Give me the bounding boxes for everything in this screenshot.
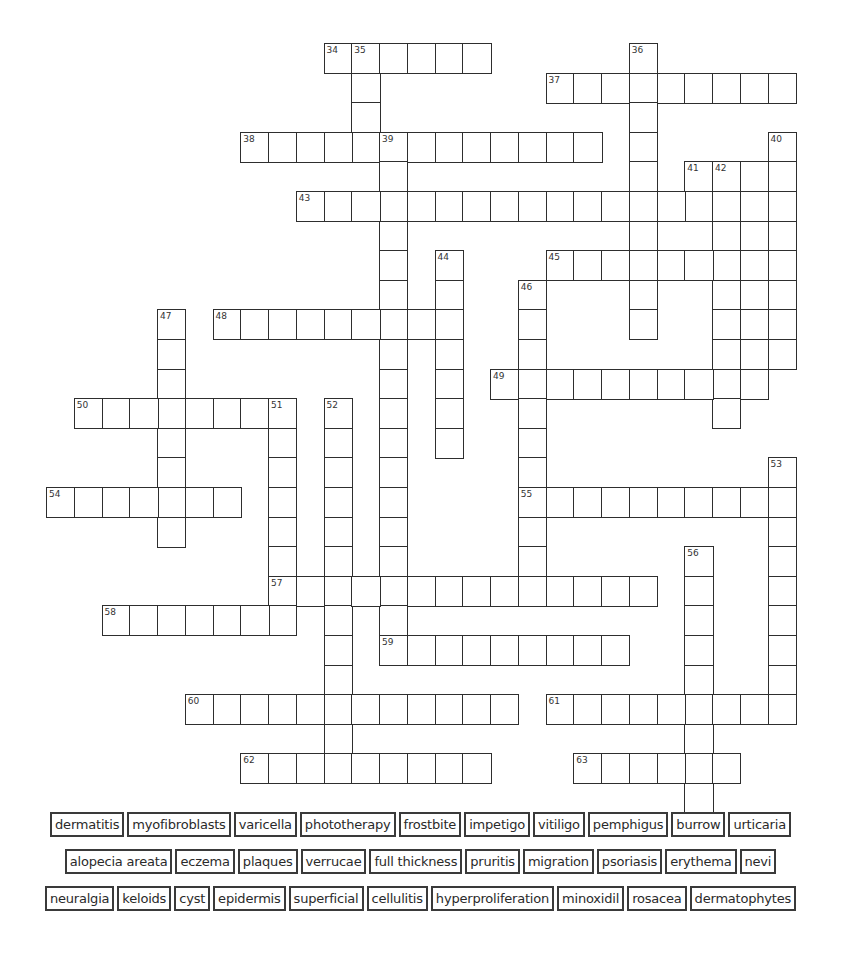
grid-cell[interactable] — [351, 132, 380, 163]
grid-cell[interactable] — [712, 221, 741, 252]
grid-cell[interactable] — [490, 694, 519, 725]
grid-cell[interactable] — [740, 221, 769, 252]
grid-cell[interactable] — [324, 753, 353, 784]
grid-cell[interactable] — [379, 753, 408, 784]
grid-cell[interactable]: 63 — [573, 753, 602, 784]
grid-cell[interactable]: 45 — [546, 250, 575, 281]
grid-cell[interactable]: 40 — [768, 132, 797, 163]
grid-cell[interactable] — [129, 487, 158, 518]
grid-cell[interactable] — [268, 517, 297, 548]
grid-cell[interactable] — [601, 576, 630, 607]
grid-cell[interactable] — [573, 369, 602, 400]
grid-cell[interactable] — [157, 457, 186, 488]
grid-cell[interactable] — [296, 576, 325, 607]
grid-cell[interactable] — [435, 309, 464, 340]
grid-cell[interactable] — [379, 191, 408, 222]
grid-cell[interactable] — [351, 753, 380, 784]
grid-cell[interactable] — [490, 132, 519, 163]
grid-cell[interactable] — [684, 250, 713, 281]
grid-cell[interactable] — [657, 73, 686, 104]
grid-cell[interactable] — [629, 576, 658, 607]
grid-cell[interactable] — [407, 132, 436, 163]
grid-cell[interactable] — [712, 309, 741, 340]
grid-cell[interactable] — [324, 457, 353, 488]
grid-cell[interactable] — [435, 398, 464, 429]
grid-cell[interactable] — [629, 280, 658, 311]
grid-cell[interactable] — [768, 665, 797, 696]
grid-cell[interactable] — [573, 73, 602, 104]
grid-cell[interactable] — [657, 369, 686, 400]
grid-cell[interactable] — [407, 753, 436, 784]
grid-cell[interactable] — [518, 132, 547, 163]
grid-cell[interactable] — [435, 694, 464, 725]
grid-cell[interactable] — [435, 280, 464, 311]
grid-cell[interactable] — [629, 309, 658, 340]
grid-cell[interactable] — [268, 309, 297, 340]
grid-cell[interactable] — [601, 635, 630, 666]
grid-cell[interactable] — [518, 398, 547, 429]
grid-cell[interactable] — [629, 753, 658, 784]
grid-cell[interactable] — [740, 694, 769, 725]
grid-cell[interactable]: 39 — [379, 132, 408, 163]
grid-cell[interactable] — [684, 605, 713, 636]
grid-cell[interactable]: 35 — [351, 43, 380, 74]
grid-cell[interactable] — [601, 73, 630, 104]
grid-cell[interactable] — [768, 280, 797, 311]
grid-cell[interactable] — [740, 309, 769, 340]
grid-cell[interactable] — [462, 635, 491, 666]
grid-cell[interactable] — [546, 635, 575, 666]
grid-cell[interactable] — [435, 191, 464, 222]
grid-cell[interactable] — [379, 546, 408, 577]
grid-cell[interactable] — [324, 694, 353, 725]
grid-cell[interactable] — [324, 635, 353, 666]
grid-cell[interactable] — [379, 517, 408, 548]
grid-cell[interactable]: 60 — [185, 694, 214, 725]
grid-cell[interactable]: 43 — [296, 191, 325, 222]
grid-cell[interactable] — [768, 605, 797, 636]
grid-cell[interactable] — [740, 161, 769, 192]
grid-cell[interactable] — [379, 369, 408, 400]
grid-cell[interactable] — [462, 694, 491, 725]
grid-cell[interactable] — [157, 398, 186, 429]
grid-cell[interactable] — [490, 635, 519, 666]
grid-cell[interactable] — [379, 161, 408, 192]
grid-cell[interactable] — [573, 191, 602, 222]
grid-cell[interactable]: 56 — [684, 546, 713, 577]
grid-cell[interactable] — [185, 398, 214, 429]
grid-cell[interactable] — [296, 132, 325, 163]
grid-cell[interactable] — [268, 753, 297, 784]
grid-cell[interactable] — [435, 132, 464, 163]
grid-cell[interactable] — [684, 576, 713, 607]
grid-cell[interactable] — [240, 694, 269, 725]
grid-cell[interactable] — [379, 398, 408, 429]
grid-cell[interactable] — [768, 339, 797, 370]
grid-cell[interactable] — [518, 191, 547, 222]
grid-cell[interactable] — [379, 280, 408, 311]
grid-cell[interactable] — [601, 250, 630, 281]
grid-cell[interactable] — [712, 250, 741, 281]
grid-cell[interactable] — [157, 487, 186, 518]
grid-cell[interactable] — [407, 43, 436, 74]
grid-cell[interactable] — [768, 487, 797, 518]
grid-cell[interactable] — [213, 605, 242, 636]
grid-cell[interactable] — [379, 487, 408, 518]
grid-cell[interactable] — [601, 694, 630, 725]
grid-cell[interactable]: 44 — [435, 250, 464, 281]
grid-cell[interactable]: 51 — [268, 398, 297, 429]
grid-cell[interactable]: 42 — [712, 161, 741, 192]
grid-cell[interactable] — [213, 694, 242, 725]
grid-cell[interactable] — [462, 753, 491, 784]
grid-cell[interactable] — [351, 73, 380, 104]
grid-cell[interactable] — [268, 546, 297, 577]
grid-cell[interactable]: 46 — [518, 280, 547, 311]
grid-cell[interactable] — [268, 487, 297, 518]
grid-cell[interactable]: 36 — [629, 43, 658, 74]
grid-cell[interactable] — [573, 250, 602, 281]
grid-cell[interactable] — [740, 339, 769, 370]
grid-cell[interactable] — [185, 487, 214, 518]
grid-cell[interactable] — [684, 665, 713, 696]
grid-cell[interactable] — [768, 309, 797, 340]
grid-cell[interactable] — [546, 487, 575, 518]
grid-cell[interactable] — [268, 428, 297, 459]
grid-cell[interactable] — [379, 309, 408, 340]
